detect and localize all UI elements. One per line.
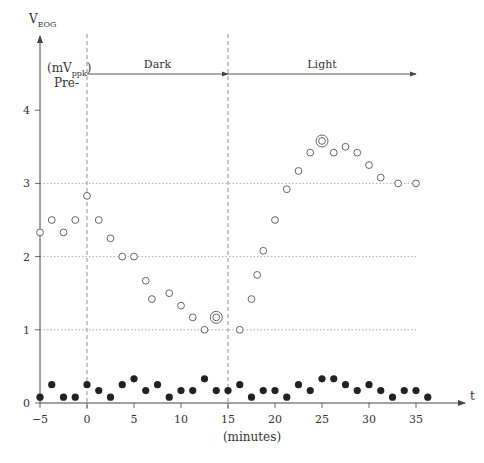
open-circle — [201, 326, 208, 333]
filled-dot — [83, 381, 90, 388]
filled-dot — [213, 387, 220, 394]
open-circle — [166, 290, 173, 297]
filled-dot — [342, 381, 349, 388]
gridlines — [40, 183, 418, 329]
y-tick-label: 0 — [23, 397, 30, 410]
filled-dot — [60, 394, 67, 401]
double-circle-inner — [213, 314, 220, 321]
open-circle — [295, 168, 302, 175]
filled-dot — [271, 387, 278, 394]
x-axis-variable: t — [470, 389, 475, 403]
filled-dot — [119, 381, 126, 388]
x-axis-label: (minutes) — [223, 430, 281, 444]
open-circle — [48, 217, 55, 224]
x-tick-label: 5 — [131, 413, 138, 426]
double-circle-inner — [319, 138, 326, 145]
filled-dot — [166, 394, 173, 401]
filled-dot — [177, 387, 184, 394]
open-circle — [84, 192, 91, 199]
axis-labels: VEOG (mVppk) Pre- t (minutes) — [28, 12, 475, 444]
x-tick-label: 15 — [221, 413, 235, 426]
open-circle — [178, 302, 185, 309]
open-circle — [272, 217, 279, 224]
open-circle — [107, 235, 114, 242]
filled-dot — [130, 375, 137, 382]
filled-dot — [330, 375, 337, 382]
filled-dot — [72, 394, 79, 401]
filled-dot — [248, 394, 255, 401]
double-circle-outer — [210, 311, 222, 323]
filled-dot — [154, 381, 161, 388]
open-circle — [395, 180, 402, 187]
axes — [40, 36, 465, 403]
x-tick-label: 10 — [174, 413, 188, 426]
open-circle — [260, 247, 267, 254]
open-circle — [413, 180, 420, 187]
open-circle — [37, 229, 44, 236]
open-circle — [236, 326, 243, 333]
filled-dot — [307, 387, 314, 394]
x-tick-label: 30 — [362, 413, 376, 426]
x-tick-label: −5 — [32, 413, 48, 426]
open-circle — [119, 253, 126, 260]
open-circle — [342, 143, 349, 150]
pre-label: Pre- — [54, 76, 79, 90]
open-circle — [60, 229, 67, 236]
phase-label-light: Light — [307, 58, 337, 71]
filled-dot — [142, 387, 149, 394]
y-axis-label: VEOG — [28, 12, 56, 29]
filled-dot — [377, 387, 384, 394]
filled-dot — [424, 394, 431, 401]
eog-chart: DarkLight −505101520253035 01234 VEOG (m… — [0, 0, 484, 463]
open-circle — [148, 296, 155, 303]
filled-dot — [107, 394, 114, 401]
filled-dot — [295, 381, 302, 388]
open-circle — [248, 296, 255, 303]
filled-dot — [389, 394, 396, 401]
filled-dot — [224, 387, 231, 394]
filled-dot — [412, 387, 419, 394]
filled-dot — [283, 394, 290, 401]
filled-dot — [260, 387, 267, 394]
open-circle — [254, 272, 261, 279]
data-points — [36, 135, 431, 401]
filled-dot — [236, 381, 243, 388]
open-circle — [142, 277, 149, 284]
x-tick-label: 0 — [84, 413, 91, 426]
filled-dot — [318, 375, 325, 382]
y-tick-label: 1 — [23, 324, 30, 337]
phase-label-dark: Dark — [144, 58, 172, 71]
filled-dot — [48, 381, 55, 388]
open-circle — [95, 217, 102, 224]
open-circle — [366, 162, 373, 169]
x-ticks: −505101520253035 — [32, 403, 423, 426]
open-circle — [131, 253, 138, 260]
x-tick-label: 25 — [315, 413, 329, 426]
filled-dot — [365, 381, 372, 388]
filled-dot — [401, 387, 408, 394]
phase-markers: DarkLight — [87, 34, 416, 410]
open-circle — [307, 149, 314, 156]
open-circle — [377, 174, 384, 181]
open-circle — [72, 217, 79, 224]
y-tick-label: 4 — [23, 104, 30, 117]
filled-dot — [201, 375, 208, 382]
filled-dot — [36, 394, 43, 401]
y-ticks: 01234 — [23, 104, 40, 410]
filled-dot — [95, 387, 102, 394]
open-circle — [330, 149, 337, 156]
y-tick-label: 2 — [23, 251, 30, 264]
open-circle — [189, 314, 196, 321]
open-circle — [283, 186, 290, 193]
open-circle — [354, 149, 361, 156]
filled-dot — [189, 387, 196, 394]
x-tick-label: 20 — [268, 413, 282, 426]
x-tick-label: 35 — [409, 413, 423, 426]
y-tick-label: 3 — [23, 177, 30, 190]
filled-dot — [354, 387, 361, 394]
double-circle-outer — [316, 135, 328, 147]
